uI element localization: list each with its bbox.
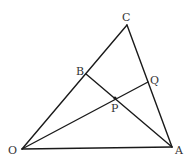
point-p-dot — [113, 96, 116, 99]
label-p: P — [111, 102, 119, 115]
label-a: A — [174, 144, 184, 157]
label-c: C — [122, 11, 130, 24]
segment-oc — [22, 25, 127, 149]
segment-oq — [22, 82, 148, 149]
label-o: O — [8, 144, 17, 157]
label-b: B — [76, 65, 84, 78]
segment-oa — [22, 147, 172, 149]
geometry-diagram: C B Q P O A — [0, 0, 190, 163]
label-q: Q — [150, 74, 159, 87]
